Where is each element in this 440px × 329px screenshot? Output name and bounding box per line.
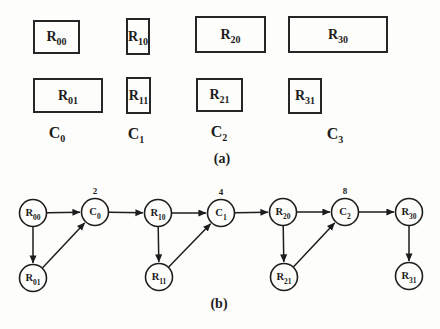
edge-C1-to-R20 — [235, 212, 268, 213]
edge-R01-to-C0 — [43, 223, 85, 268]
node-annotation-C2: 8 — [343, 186, 348, 196]
node-R10: R10 — [145, 200, 172, 227]
caption-b: (b) — [210, 297, 227, 311]
node-C0: C0 — [82, 199, 109, 226]
node-R31: R31 — [396, 263, 423, 290]
node-R01: R01 — [20, 265, 47, 292]
figure-b-svg: R00C0R10C1R20C2R30R01R11R21R31 248 — [0, 0, 440, 329]
edge-R20-to-R21 — [283, 226, 284, 262]
node-R00: R00 — [20, 200, 47, 227]
node-R21: R21 — [271, 264, 298, 291]
annotations-layer: 248 — [93, 186, 348, 197]
edge-R10-to-R11 — [158, 227, 159, 262]
edge-R21-to-C2 — [294, 223, 335, 267]
node-R30: R30 — [396, 199, 423, 226]
node-R20: R20 — [270, 199, 297, 226]
edge-R00-to-C0 — [47, 212, 80, 213]
edge-C0-to-R10 — [109, 212, 143, 213]
node-annotation-C1: 4 — [219, 187, 224, 197]
node-C2: C2 — [332, 199, 359, 226]
node-R11: R11 — [146, 264, 173, 291]
edge-R11-to-C1 — [169, 224, 211, 267]
node-C1: C1 — [208, 200, 235, 227]
figure-page: R00R10R20R30R01R11R21R31C0C1C2C3 (a) R00… — [0, 0, 440, 329]
node-annotation-C0: 2 — [93, 186, 98, 196]
